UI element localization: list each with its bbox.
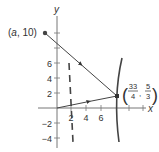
- y-tick-label: −2: [42, 119, 52, 129]
- y-numerator: 5: [146, 82, 150, 91]
- start-point-label: (a, 10): [8, 27, 37, 38]
- x-numerator: 33: [129, 82, 137, 91]
- x-axis: [38, 105, 146, 111]
- incoming-ray-segment: [81, 65, 117, 97]
- y-tick-label: −4: [42, 134, 52, 144]
- x-denominator: 4: [131, 92, 135, 101]
- y-tick-label: 2: [47, 89, 52, 99]
- reflected-ray: [57, 102, 89, 109]
- comma: ,: [139, 89, 141, 98]
- x-tick-label: 4: [83, 113, 88, 123]
- x-tick-label: 6: [98, 113, 103, 123]
- reflection-point-label: ( 33 4 , 5 3 ): [122, 82, 158, 105]
- reflection-point: [115, 94, 119, 98]
- hyperbola-reflection-diagram: x 2 4 6 y 6 4 2 −2 −4 (a, 10) ( 33 4 , 5: [0, 0, 159, 152]
- reflected-ray-segment: [89, 96, 117, 102]
- y-denominator: 3: [146, 92, 150, 101]
- open-paren: (: [122, 85, 128, 105]
- y-tick-label: 4: [47, 74, 52, 84]
- y-tick-label: 6: [47, 59, 52, 69]
- start-point: [43, 31, 47, 35]
- close-paren: ): [152, 85, 158, 105]
- dashed-line: [69, 63, 73, 142]
- y-axis: [54, 16, 60, 148]
- y-axis-label: y: [53, 4, 60, 15]
